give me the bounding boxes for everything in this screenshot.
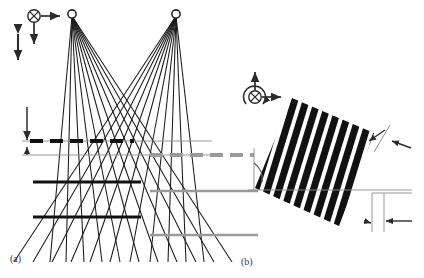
figure-root: (a) — [0, 0, 424, 278]
panel-b-label: (b) — [241, 256, 253, 268]
source-right — [172, 10, 180, 18]
source-left — [68, 10, 76, 18]
panel-a-label: (a) — [10, 253, 21, 265]
figure-canvas: (a) — [0, 0, 424, 278]
